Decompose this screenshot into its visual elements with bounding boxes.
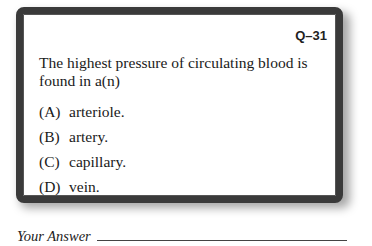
option-text: artery.	[69, 124, 108, 149]
answer-options: (A) arteriole. (B) artery. (C) capillary…	[39, 99, 126, 199]
question-card: Q–31 The highest pressure of circulating…	[16, 7, 343, 203]
question-stem: The highest pressure of circulating bloo…	[39, 54, 339, 90]
option-letter: (B)	[39, 124, 69, 149]
option-letter: (D)	[39, 174, 69, 199]
answer-label: Your Answer	[17, 228, 91, 245]
option-text: arteriole.	[69, 99, 125, 124]
option-b[interactable]: (B) artery.	[39, 124, 126, 149]
question-number: Q–31	[295, 28, 327, 43]
option-text: capillary.	[69, 149, 126, 174]
option-a[interactable]: (A) arteriole.	[39, 99, 126, 124]
answer-blank-line[interactable]	[97, 226, 347, 241]
option-c[interactable]: (C) capillary.	[39, 149, 126, 174]
option-letter: (A)	[39, 99, 69, 124]
option-text: vein.	[69, 174, 100, 199]
option-d[interactable]: (D) vein.	[39, 174, 126, 199]
answer-row: Your Answer	[17, 226, 347, 245]
option-letter: (C)	[39, 149, 69, 174]
